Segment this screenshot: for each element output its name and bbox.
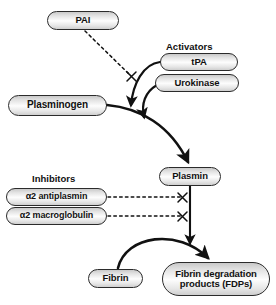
edge-a2macroglobulin-inhibits	[108, 212, 187, 221]
node-alpha2-antiplasmin[interactable]: α2 antiplasmin	[6, 188, 107, 206]
node-fibrin-degradation-products[interactable]: Fibrin degradation products (FDPs)	[162, 262, 270, 296]
node-tpa[interactable]: tPA	[160, 53, 238, 71]
node-alpha2-macroglobulin[interactable]: α2 macroglobulin	[6, 207, 107, 225]
connector-layer	[0, 0, 276, 305]
fdp-label-line2: products (FDPs)	[180, 278, 252, 289]
diagram-canvas: Activators Inhibitors PAI tPA Urokinase …	[0, 0, 276, 305]
node-pai[interactable]: PAI	[47, 11, 119, 30]
group-label-activators: Activators	[166, 41, 212, 52]
node-plasminogen[interactable]: Plasminogen	[8, 95, 107, 116]
node-urokinase[interactable]: Urokinase	[155, 74, 239, 92]
fdp-label: Fibrin degradation products (FDPs)	[175, 269, 257, 290]
node-fibrin[interactable]: Fibrin	[88, 269, 143, 288]
edge-pai-inhibits-tpa	[85, 31, 136, 81]
edge-plasminogen-to-plasmin	[107, 105, 188, 162]
edge-urokinase-activates	[143, 85, 157, 117]
node-plasmin[interactable]: Plasmin	[159, 167, 221, 186]
group-label-inhibitors: Inhibitors	[32, 173, 75, 184]
edge-a2antiplasmin-inhibits	[108, 193, 187, 202]
